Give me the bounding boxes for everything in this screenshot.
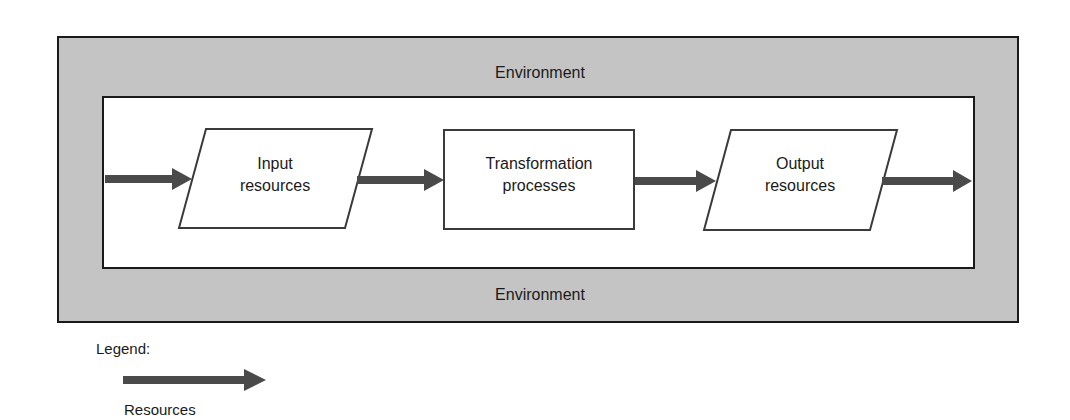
legend-resources-arrow-icon bbox=[123, 369, 266, 391]
input-resources-label-line1: Input bbox=[200, 153, 350, 175]
output-resources-node: Output resources bbox=[725, 153, 875, 197]
legend-title: Legend: bbox=[96, 340, 150, 357]
output-resources-label-line2: resources bbox=[725, 175, 875, 197]
diagram-shapes bbox=[0, 0, 1070, 420]
input-resources-label-line2: resources bbox=[200, 175, 350, 197]
arrow-environment-to-input bbox=[105, 168, 192, 190]
arrow-input-to-transform bbox=[357, 169, 444, 191]
transformation-label-line2: processes bbox=[444, 175, 634, 197]
arrow-transform-to-output bbox=[635, 170, 716, 192]
input-resources-node: Input resources bbox=[200, 153, 350, 197]
output-resources-label-line1: Output bbox=[725, 153, 875, 175]
transformation-processes-node: Transformation processes bbox=[444, 153, 634, 197]
legend-resources-label: Resources bbox=[124, 401, 196, 418]
transformation-label-line1: Transformation bbox=[444, 153, 634, 175]
arrow-output-to-environment bbox=[882, 170, 972, 192]
